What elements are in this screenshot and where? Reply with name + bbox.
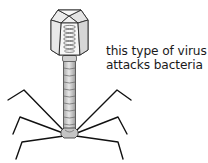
collar [63, 56, 77, 62]
tail-fiber-middle-left [13, 117, 63, 134]
tail-fiber-middle-right [77, 117, 127, 134]
caption-line-1: this type of virus [106, 44, 207, 58]
tail-sheath [64, 61, 76, 129]
bacteriophage-diagram [0, 0, 208, 163]
caption-line-2: attacks bacteria [106, 58, 207, 72]
tail-fiber-lower-left [16, 136, 64, 159]
caption: this type of virus attacks bacteria [106, 44, 207, 72]
tail-fiber-lower-right [76, 136, 123, 159]
baseplate [61, 128, 78, 138]
